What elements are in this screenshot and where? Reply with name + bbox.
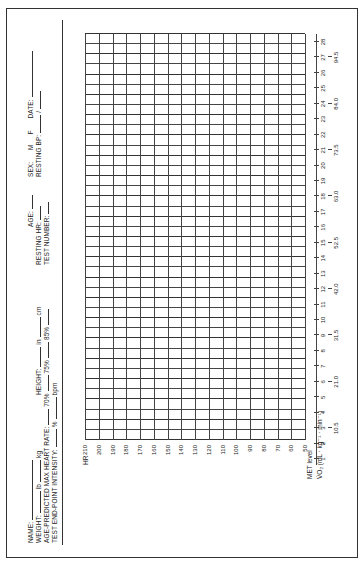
grid-line-horizontal	[236, 34, 237, 440]
hr-tick-label: 110	[220, 445, 226, 465]
met-tick-label: 26	[320, 66, 326, 80]
pct-unit: %	[51, 421, 58, 427]
met-tick	[314, 72, 319, 73]
vo2-tick	[328, 334, 332, 335]
met-tick-label: 14	[320, 251, 326, 265]
resting-bp-label: RESTING BP:	[35, 135, 42, 177]
header-divider	[62, 20, 63, 545]
resting-hr-field[interactable]: RESTING HR:	[34, 204, 42, 265]
met-tick	[314, 149, 319, 150]
age-field[interactable]: AGE:	[26, 193, 34, 265]
hr-tick-label: 60	[288, 445, 294, 465]
hr-tick-label: 180	[123, 445, 129, 465]
kg-unit: kg	[35, 451, 42, 458]
hr-tick-label: 190	[110, 445, 116, 465]
met-tick-label: 20	[320, 159, 326, 173]
resting-hr-label: RESTING HR:	[35, 222, 42, 265]
met-tick-label: 8	[320, 344, 326, 358]
grid-line-horizontal	[305, 34, 306, 440]
vo2-tick	[328, 56, 332, 57]
date-label: DATE:	[27, 99, 34, 118]
exercise-test-form: NAME: WEIGHT:lbkg AGE-PREDICTED MAX HEAR…	[0, 0, 363, 565]
met-tick	[314, 242, 319, 243]
met-tick-label: 21	[320, 143, 326, 157]
vo2-tick-label: 52.5	[333, 233, 339, 253]
grid-line-horizontal	[278, 34, 279, 440]
hr-tick-label: 160	[151, 445, 157, 465]
hr-tick-label: 50	[302, 445, 308, 465]
grid-line-horizontal	[181, 34, 182, 440]
hr-tick-label: 170	[137, 445, 143, 465]
met-tick	[314, 334, 319, 335]
met-tick	[314, 288, 319, 289]
met-tick-label: 27	[320, 50, 326, 64]
pct85-label: 85%	[43, 327, 50, 340]
pct75-label: 75%	[43, 360, 50, 373]
met-tick-label: 23	[320, 112, 326, 126]
met-tick-label: 2	[320, 437, 326, 451]
sex-label: SEX:	[27, 162, 34, 177]
vo2-tick-label: 10.5	[333, 418, 339, 438]
hr-tick-label: 150	[165, 445, 171, 465]
weight-label: WEIGHT:	[35, 515, 42, 543]
age-label: AGE:	[27, 211, 34, 227]
met-tick-label: 11	[320, 298, 326, 312]
test-number-field[interactable]: TEST NUMBER:	[42, 200, 50, 265]
in-unit: in	[35, 339, 42, 344]
resting-bp-field[interactable]: RESTING BP:/	[34, 89, 42, 177]
sex-male-option[interactable]: M	[27, 144, 34, 150]
hr-tick-label: 90	[247, 445, 253, 465]
met-tick	[314, 118, 319, 119]
vo2-tick	[328, 242, 332, 243]
met-tick-label: 3	[320, 421, 326, 435]
met-tick-label: 9	[320, 328, 326, 342]
grid-line-horizontal	[168, 34, 169, 440]
grid-line-horizontal	[223, 34, 224, 440]
vo2-tick-label: 21.0	[333, 372, 339, 392]
hr-met-grid[interactable]	[85, 34, 305, 440]
vo2-tick-label: 94.5	[333, 47, 339, 67]
met-tick	[314, 443, 319, 444]
met-tick	[314, 195, 319, 196]
met-tick	[314, 180, 319, 181]
sex-field[interactable]: SEX: M F DATE:	[26, 49, 34, 177]
met-tick	[314, 257, 319, 258]
height-field[interactable]: HEIGHT:incm	[34, 307, 42, 395]
met-tick	[314, 103, 319, 104]
grid-line-horizontal	[264, 34, 265, 440]
met-tick-label: 5	[320, 390, 326, 404]
met-tick	[314, 304, 319, 305]
met-tick-label: 4	[320, 406, 326, 420]
vo2-tick	[328, 149, 332, 150]
vo2-tick-label: 63.0	[333, 186, 339, 206]
hr-tick-label: 130	[192, 445, 198, 465]
met-tick	[314, 134, 319, 135]
met-tick	[314, 427, 319, 428]
test-number-label: TEST NUMBER:	[43, 216, 50, 265]
weight-field[interactable]: WEIGHT:lbkg	[34, 451, 42, 543]
pct70-label: 70%	[43, 393, 50, 406]
vo2-tick-label: 84.0	[333, 94, 339, 114]
hr-tick-label: 120	[206, 445, 212, 465]
name-label: NAME:	[27, 522, 34, 543]
grid-line-horizontal	[85, 34, 86, 440]
hr-tick-label: 140	[178, 445, 184, 465]
met-tick	[314, 56, 319, 57]
name-field[interactable]: NAME:	[26, 458, 34, 543]
met-tick-label: 25	[320, 81, 326, 95]
test-endpoint-intensity-field[interactable]: TEST END-POINT INTENSITY:%bpm	[50, 383, 58, 543]
grid-line-horizontal	[126, 34, 127, 440]
sex-female-option[interactable]: F	[27, 130, 34, 134]
hr-tick-label: 70	[275, 445, 281, 465]
met-tick	[314, 350, 319, 351]
met-tick	[314, 319, 319, 320]
met-tick	[314, 381, 319, 382]
grid-line-horizontal	[250, 34, 251, 440]
vo2-tick	[328, 427, 332, 428]
met-tick	[314, 273, 319, 274]
met-tick-label: 22	[320, 128, 326, 142]
age-predicted-max-hr-field[interactable]: AGE-PREDICTED MAX HEART RATE:70%75%85%	[42, 307, 50, 543]
met-tick-label: 7	[320, 359, 326, 373]
height-label: HEIGHT:	[35, 369, 42, 395]
met-tick	[314, 412, 319, 413]
